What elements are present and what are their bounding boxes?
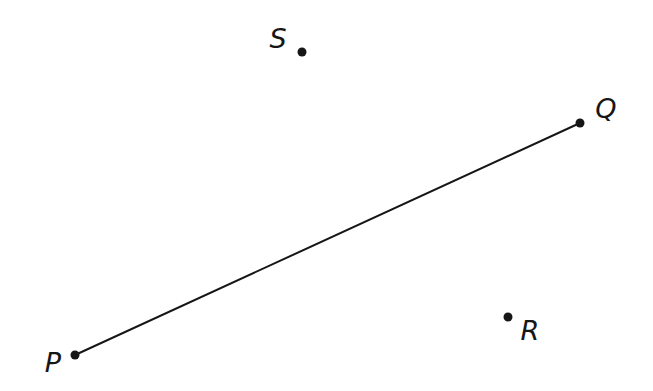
segment-PQ [75, 123, 580, 355]
geometry-figure: PQSR [0, 0, 653, 391]
figure-canvas: PQSR [0, 0, 653, 391]
point-dot-R [504, 313, 513, 322]
point-label-Q: Q [595, 93, 616, 124]
point-label-P: P [45, 347, 62, 378]
point-dot-S [298, 48, 307, 57]
point-label-R: R [521, 315, 540, 346]
point-dot-Q [576, 119, 585, 128]
point-label-S: S [269, 23, 286, 54]
point-dot-P [71, 351, 80, 360]
